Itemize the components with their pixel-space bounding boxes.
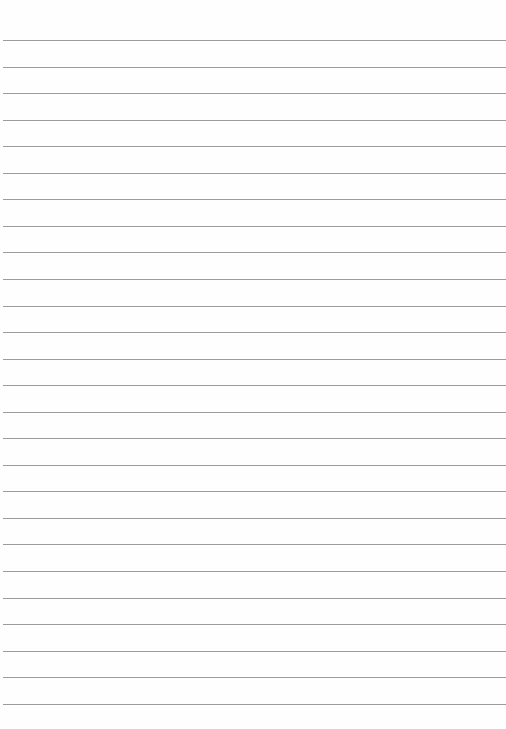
ruled-line [3, 598, 506, 599]
ruled-line [3, 173, 506, 174]
ruled-line [3, 412, 506, 413]
ruled-line [3, 93, 506, 94]
ruled-line [3, 40, 506, 41]
ruled-line [3, 571, 506, 572]
ruled-line [3, 306, 506, 307]
ruled-line [3, 385, 506, 386]
ruled-line [3, 146, 506, 147]
ruled-line [3, 677, 506, 678]
ruled-line [3, 67, 506, 68]
ruled-line [3, 465, 506, 466]
lined-paper-page [0, 0, 506, 729]
ruled-line [3, 359, 506, 360]
ruled-line [3, 199, 506, 200]
ruled-line [3, 624, 506, 625]
ruled-line [3, 438, 506, 439]
ruled-line [3, 332, 506, 333]
ruled-line [3, 279, 506, 280]
ruled-line [3, 226, 506, 227]
ruled-line [3, 120, 506, 121]
ruled-line [3, 491, 506, 492]
ruled-line [3, 544, 506, 545]
ruled-line [3, 651, 506, 652]
ruled-line [3, 704, 506, 705]
ruled-line [3, 252, 506, 253]
ruled-line [3, 518, 506, 519]
